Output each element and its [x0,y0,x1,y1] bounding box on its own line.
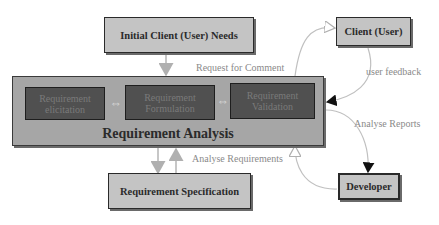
node-elicitation[interactable]: Requirement elicitation [25,87,105,120]
edge-label-analyse-reports: Analyse Reports [354,118,420,129]
double-arrow-icon: ⇔ [216,95,230,107]
node-initial-needs[interactable]: Initial Client (User) Needs [104,17,254,53]
node-developer-label: Developer [346,181,391,192]
arrow-analyse-requirements [295,147,337,189]
node-formulation[interactable]: Requirement Formulation [125,85,215,120]
node-validation-label: Requirement Validation [231,90,314,112]
arrow-request-for-comment [295,28,334,76]
group-title: Requirement Analysis [13,126,323,142]
node-elicitation-label: Requirement elicitation [26,93,104,115]
node-requirement-specification-label: Requirement Specification [120,186,239,197]
edge-label-analyse-requirements: Analyse Requirements [192,153,283,164]
double-arrow-icon: ⇔ [108,97,124,109]
node-requirement-specification[interactable]: Requirement Specification [108,173,251,209]
node-validation[interactable]: Requirement Validation [230,83,315,119]
group-requirement-analysis[interactable]: Requirement elicitation ⇔ Requirement Fo… [12,76,324,146]
node-initial-needs-label: Initial Client (User) Needs [120,30,238,41]
node-developer[interactable]: Developer [338,173,400,200]
edge-label-request-for-comment: Request for Comment [196,62,284,73]
node-formulation-label: Requirement Formulation [126,92,214,114]
arrow-user-feedback [327,48,371,102]
node-client[interactable]: Client (User) [336,17,411,46]
edge-label-user-feedback: user feedback [366,66,421,77]
node-client-label: Client (User) [344,26,402,37]
